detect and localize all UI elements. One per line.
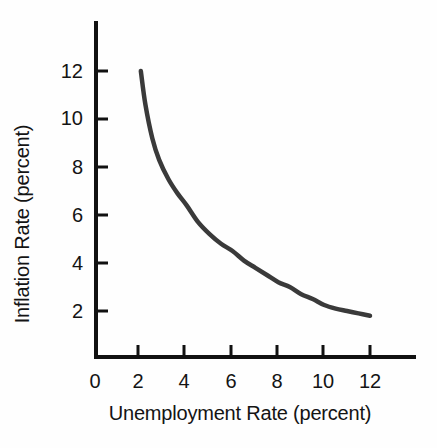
phillips-curve-line bbox=[141, 71, 370, 316]
plot-area bbox=[0, 0, 437, 448]
phillips-curve-chart: Inflation Rate (percent) Unemployment Ra… bbox=[0, 0, 437, 448]
